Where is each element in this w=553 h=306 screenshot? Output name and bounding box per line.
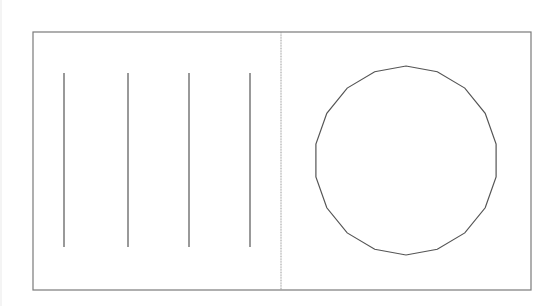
left-panel-vertical-lines [64,73,250,247]
outer-frame [33,32,531,290]
right-panel-circle-polygon [316,66,496,255]
figure-canvas [0,0,553,306]
